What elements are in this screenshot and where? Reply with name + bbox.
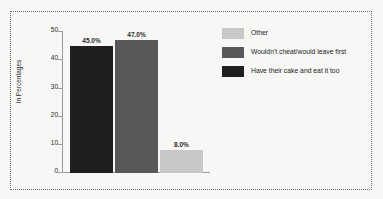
y-tick-label-0: 0 bbox=[18, 168, 58, 175]
legend-item-other[interactable]: Other bbox=[222, 27, 372, 40]
bar-2-value-label: 47.0% bbox=[115, 31, 158, 38]
y-axis-title: In Percentages bbox=[15, 42, 22, 122]
y-tick-50: 50 bbox=[14, 31, 58, 32]
legend-swatch-have-cake bbox=[222, 66, 244, 77]
y-tick-10: 10 bbox=[14, 144, 58, 145]
bar-2[interactable] bbox=[115, 40, 158, 173]
legend-swatch-wouldnt-cheat bbox=[222, 47, 244, 58]
bar-1-value-label: 45.0% bbox=[70, 37, 113, 44]
legend-label-have-cake: Have their cake and eat it too bbox=[251, 68, 339, 75]
bar-3[interactable] bbox=[160, 150, 203, 173]
legend-label-wouldnt-cheat: Wouldn't cheat/would leave first bbox=[251, 49, 346, 56]
legend-item-wouldnt-cheat[interactable]: Wouldn't cheat/would leave first bbox=[222, 46, 372, 59]
bar-1[interactable] bbox=[70, 46, 113, 173]
chart-figure: 50 40 30 20 10 0 In Percentages 45.0% 47… bbox=[0, 0, 383, 199]
y-tick-label-20: 20 bbox=[18, 112, 58, 119]
y-tick-0: 0 bbox=[14, 172, 58, 173]
y-tick-label-40: 40 bbox=[18, 55, 58, 62]
clipped-title bbox=[0, 0, 383, 1]
bar-3-value-label: 8.0% bbox=[160, 141, 203, 148]
legend-label-other: Other bbox=[251, 30, 268, 37]
y-tick-label-30: 30 bbox=[18, 84, 58, 91]
plot-area: 45.0% 47.0% 8.0% bbox=[62, 28, 208, 173]
y-tick-label-50: 50 bbox=[18, 27, 58, 34]
legend: Other Wouldn't cheat/would leave first H… bbox=[222, 27, 372, 84]
legend-swatch-other bbox=[222, 28, 244, 39]
legend-item-have-cake[interactable]: Have their cake and eat it too bbox=[222, 65, 372, 78]
y-tick-label-10: 10 bbox=[18, 140, 58, 147]
